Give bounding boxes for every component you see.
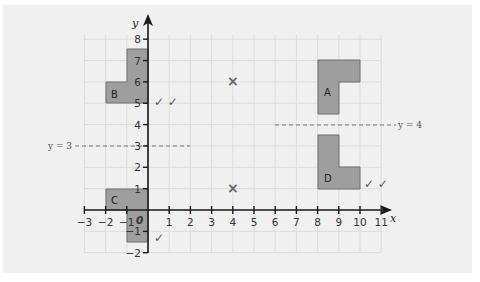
svg-text:4: 4 [134,119,141,131]
svg-text:−2: −2 [126,247,141,259]
svg-text:4: 4 [229,216,236,228]
svg-text:5: 5 [251,216,258,228]
svg-text:1: 1 [134,183,141,195]
svg-text:−1: −1 [126,225,141,237]
svg-text:1: 1 [166,216,173,228]
svg-text:7: 7 [134,55,141,67]
svg-text:3: 3 [134,140,141,152]
svg-text:10: 10 [353,216,366,228]
svg-text:2: 2 [134,161,141,173]
label-y-equals-4: y = 4 [397,120,422,130]
cross-mark-4-1: × [227,180,239,196]
svg-text:−2: −2 [98,216,113,228]
svg-text:2: 2 [187,216,194,228]
svg-text:−3: −3 [77,216,92,228]
check-marks-b: ✓ ✓ [154,95,178,109]
coordinate-grid-diagram: y = 3 y = 4 A B C D x y 0 −3−2−112345678… [0,0,480,282]
svg-text:11: 11 [375,216,388,228]
origin-label: 0 [136,214,143,226]
shape-a-label: A [324,87,331,98]
shape-d-label: D [324,173,332,184]
cross-mark-4-6: × [227,73,239,89]
svg-text:6: 6 [134,76,141,88]
svg-text:5: 5 [134,97,141,109]
shape-b-label: B [111,89,118,100]
shape-c-label: C [111,195,118,206]
svg-text:8: 8 [314,216,321,228]
check-marks-d: ✓ ✓ [364,177,388,191]
y-axis-label: y [131,17,139,30]
check-mark-c: ✓ [154,231,164,245]
svg-text:8: 8 [134,33,141,45]
svg-text:9: 9 [335,216,342,228]
svg-text:6: 6 [272,216,279,228]
x-axis-label: x [390,212,397,225]
svg-text:7: 7 [293,216,300,228]
svg-text:3: 3 [208,216,215,228]
label-y-equals-3: y = 3 [47,141,72,151]
x-tick-labels: −3−2−11234567891011 [77,216,388,228]
